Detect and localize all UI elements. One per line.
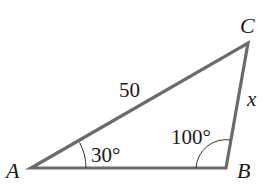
side-label-ac: 50	[119, 78, 140, 102]
angle-label-b: 100°	[171, 125, 211, 149]
vertex-label-c: C	[240, 13, 255, 38]
vertex-label-a: A	[4, 158, 20, 183]
angle-label-a: 30°	[91, 143, 120, 167]
vertex-label-b: B	[237, 158, 250, 183]
triangle-outline	[31, 43, 248, 168]
side-label-bc: x	[246, 87, 257, 111]
triangle	[31, 43, 248, 168]
triangle-diagram: A B C 50 x 30° 100°	[0, 0, 267, 190]
angle-arc-a	[80, 142, 86, 168]
